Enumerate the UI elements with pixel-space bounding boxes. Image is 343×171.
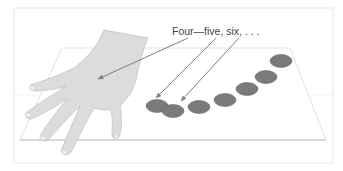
- middle-nail: [40, 136, 46, 140]
- counting-disk: [162, 105, 184, 118]
- index-nail: [25, 113, 31, 117]
- pinky-nail: [114, 134, 118, 139]
- ring-nail: [61, 150, 67, 154]
- counting-disk: [214, 94, 236, 107]
- counting-disk: [236, 83, 258, 96]
- counting-disk: [188, 101, 210, 114]
- diagram-caption: Four—five, six, . . .: [172, 25, 260, 37]
- counting-disk: [270, 55, 292, 68]
- thumb-nail: [29, 86, 35, 90]
- counting-disk: [255, 71, 277, 84]
